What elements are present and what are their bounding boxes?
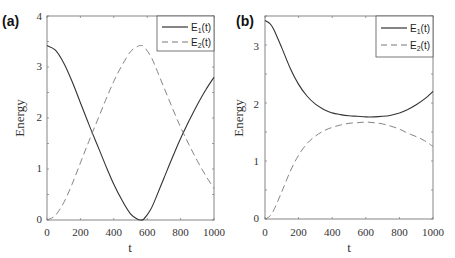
panel-b-label: (b) <box>236 13 254 29</box>
x-tick: 200 <box>72 226 89 238</box>
y-tick: 0 <box>254 212 260 224</box>
panel-a-x-tick-labels: 0 200 400 600 800 1000 <box>44 226 225 238</box>
x-tick: 800 <box>391 226 408 238</box>
legend-label-e1: E1(t) <box>191 22 211 34</box>
y-axis-label: Energy <box>231 99 246 137</box>
x-tick: 1000 <box>203 226 226 238</box>
panel-b-x-tick-labels: 0 200 400 600 800 1000 <box>262 226 444 238</box>
series-e2-line <box>47 45 214 220</box>
y-tick: 3 <box>37 60 43 72</box>
x-tick: 800 <box>172 226 189 238</box>
legend-label-e2: E2(t) <box>191 37 211 49</box>
series-e2-line <box>265 122 433 219</box>
x-tick: 0 <box>262 226 268 238</box>
y-tick: 0 <box>37 213 43 225</box>
x-tick: 600 <box>358 226 375 238</box>
y-tick: 1 <box>37 162 43 174</box>
legend-label-e1: E1(t) <box>410 23 430 35</box>
panel-a-y-tick-labels: 0 1 2 3 4 <box>37 10 43 225</box>
y-tick: 2 <box>37 111 43 123</box>
x-tick: 1000 <box>422 226 445 238</box>
panel-a: (a) 0 200 400 600 800 1000 0 1 2 3 4 t E… <box>2 10 226 255</box>
y-axis-label: Energy <box>12 99 27 137</box>
legend: E1(t) E2(t) <box>376 16 433 57</box>
y-tick: 2 <box>254 98 260 110</box>
x-axis-label: t <box>128 240 132 255</box>
x-tick: 400 <box>106 226 123 238</box>
x-tick: 600 <box>139 226 156 238</box>
y-tick: 3 <box>254 40 260 52</box>
y-tick: 1 <box>254 155 260 167</box>
panel-a-label: (a) <box>2 13 19 29</box>
x-axis-label: t <box>347 240 351 255</box>
x-tick: 0 <box>44 226 50 238</box>
series-e1-line <box>47 46 214 221</box>
legend: E1(t) E2(t) <box>157 16 214 51</box>
panel-b-y-tick-labels: 0 1 2 3 <box>254 40 260 224</box>
figure: (a) 0 200 400 600 800 1000 0 1 2 3 4 t E… <box>0 0 455 258</box>
x-tick: 200 <box>290 226 307 238</box>
y-tick: 4 <box>37 10 43 22</box>
panel-b: (b) 0 200 400 600 800 1000 0 1 2 3 t Ene… <box>231 13 445 255</box>
x-tick: 400 <box>324 226 341 238</box>
legend-label-e2: E2(t) <box>410 40 430 52</box>
